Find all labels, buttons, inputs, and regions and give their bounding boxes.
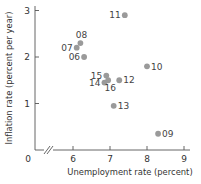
point-marker [74,45,80,51]
point-marker [81,54,87,60]
point-label: 10 [151,62,163,72]
x-tick-label: 6 [70,154,76,164]
data-point: 13 [111,101,129,111]
point-label: 06 [69,52,81,62]
point-label: 09 [162,129,174,139]
x-axis-title: Unemployment rate (percent) [67,167,192,177]
y-tick-label: 1 [24,99,30,109]
point-marker [144,63,150,69]
data-point: 12 [116,75,134,85]
point-label: 13 [118,101,129,111]
data-point: 06 [69,52,87,62]
data-point: 09 [155,129,174,139]
y-axis-title: Inflation rate (percent per year) [4,11,14,144]
data-points: 0607080910111213141516 [61,10,174,139]
data-point: 16 [104,77,116,93]
point-marker [155,131,161,137]
point-label: 16 [104,83,116,93]
point-label: 11 [109,10,120,20]
data-point: 08 [76,30,88,46]
x-tick-label: 7 [107,154,113,164]
y-ticks: 123 [24,6,39,109]
point-label: 07 [61,43,72,53]
y-tick-label: 2 [24,52,30,62]
scatter-chart: 123 6789 0 Unemployment rate (percent) I… [0,0,201,184]
point-marker [116,77,122,83]
data-point: 11 [109,10,127,20]
y-tick-label: 3 [24,6,30,16]
point-marker [111,103,117,109]
point-marker [78,40,84,46]
x-tick-label: 8 [144,154,150,164]
origin-label: 0 [25,154,31,164]
x-ticks: 6789 [70,146,187,164]
point-marker [122,12,128,18]
point-label: 15 [91,71,102,81]
data-point: 10 [144,62,163,72]
axis-break-icon [44,146,53,154]
point-label: 08 [76,30,88,40]
point-label: 12 [123,75,134,85]
x-tick-label: 9 [181,154,187,164]
